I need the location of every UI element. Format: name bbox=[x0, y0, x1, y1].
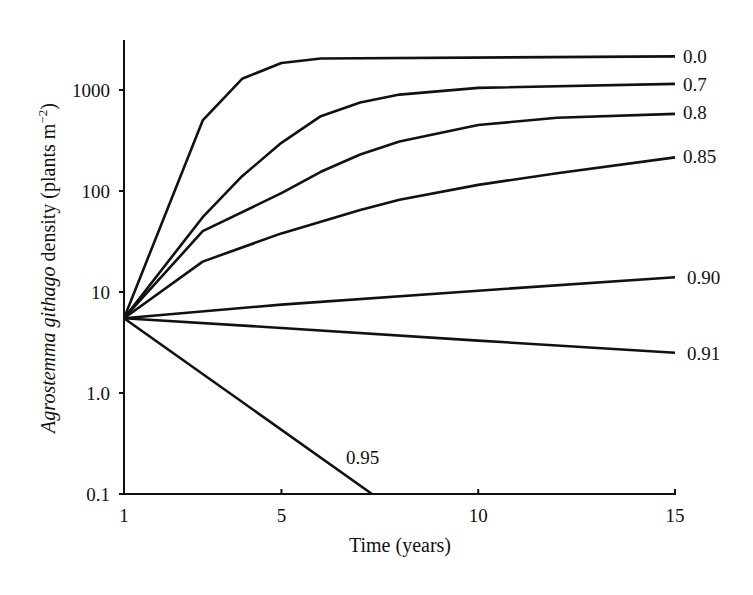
y-axis-label: Agrostemma githago density (plants m−2) bbox=[35, 103, 60, 435]
series-label-0-0: 0.0 bbox=[683, 46, 707, 67]
y-axis-label-close: ) bbox=[37, 103, 60, 110]
y-tick-label: 1.0 bbox=[86, 383, 110, 404]
y-tick-label: 1000 bbox=[72, 80, 110, 101]
density-chart: 0.11.0101001000151015 0.00.70.80.850.900… bbox=[0, 0, 753, 595]
y-tick-label: 10 bbox=[91, 282, 110, 303]
series-lines bbox=[124, 56, 675, 494]
y-tick-label: 0.1 bbox=[86, 484, 110, 505]
series-labels: 0.00.70.80.850.900.910.95 bbox=[346, 46, 720, 468]
series-label-0-90: 0.90 bbox=[687, 267, 720, 288]
series-line-0-91 bbox=[124, 318, 675, 353]
x-axis-label: Time (years) bbox=[349, 534, 451, 557]
series-line-0-95 bbox=[124, 318, 372, 494]
y-axis-label-exponent: −2 bbox=[35, 110, 50, 124]
series-label-0-7: 0.7 bbox=[683, 74, 707, 95]
series-label-0-91: 0.91 bbox=[687, 343, 720, 364]
y-tick-label: 100 bbox=[82, 181, 111, 202]
y-axis-label-species: Agrostemma githago bbox=[37, 266, 60, 434]
x-tick-label: 15 bbox=[666, 505, 685, 526]
series-line-0-90 bbox=[124, 277, 675, 318]
series-line-0-85 bbox=[124, 157, 675, 318]
series-label-0-8: 0.8 bbox=[683, 102, 707, 123]
series-label-0-95: 0.95 bbox=[346, 447, 379, 468]
x-tick-label: 5 bbox=[277, 505, 287, 526]
y-axis-label-units: density (plants m bbox=[37, 123, 60, 266]
x-tick-label: 10 bbox=[469, 505, 488, 526]
series-label-0-85: 0.85 bbox=[683, 146, 716, 167]
series-line-0-8 bbox=[124, 114, 675, 318]
x-tick-label: 1 bbox=[119, 505, 129, 526]
